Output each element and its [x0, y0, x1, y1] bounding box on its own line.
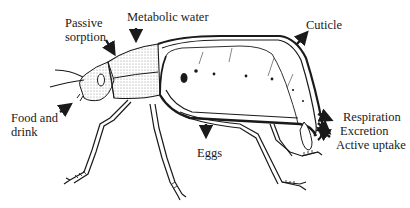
passive-sorption-arrow	[106, 40, 112, 50]
label-excretion-text: Excretion	[340, 124, 389, 138]
label-passive-sorption-line2: sorption	[65, 30, 106, 44]
label-respiration-text: Respiration	[343, 110, 401, 124]
label-cuticle-text: Cuticle	[306, 18, 342, 32]
label-cuticle: Cuticle	[306, 18, 342, 32]
spiracles	[181, 69, 305, 102]
abdomen	[158, 36, 323, 150]
label-eggs: Eggs	[197, 146, 222, 160]
label-passive-sorption-line1: Passive	[65, 16, 106, 30]
beetle-illustration	[0, 0, 410, 208]
label-active-uptake: Active uptake	[336, 138, 406, 152]
label-passive-sorption: Passive sorption	[65, 16, 106, 44]
legs	[64, 100, 322, 200]
label-eggs-text: Eggs	[197, 146, 222, 160]
thorax	[108, 44, 160, 99]
label-metabolic-water-text: Metabolic water	[127, 10, 209, 24]
label-food-and-drink-line2: drink	[11, 125, 58, 139]
beetle-water-balance-diagram: Passive sorption Metabolic water Cuticle…	[0, 0, 410, 208]
active-uptake-arrow	[322, 131, 330, 137]
food-and-drink-arrow	[60, 107, 67, 112]
label-respiration: Respiration	[343, 110, 401, 124]
head	[77, 62, 114, 101]
label-active-uptake-text: Active uptake	[336, 138, 406, 152]
label-excretion: Excretion	[340, 124, 389, 138]
respiration-arrow	[318, 114, 327, 118]
antennae	[50, 70, 84, 87]
cuticle-arrow	[297, 36, 304, 44]
label-food-and-drink-line1: Food and	[11, 111, 58, 125]
label-food-and-drink: Food and drink	[11, 111, 58, 139]
label-metabolic-water: Metabolic water	[127, 10, 209, 24]
